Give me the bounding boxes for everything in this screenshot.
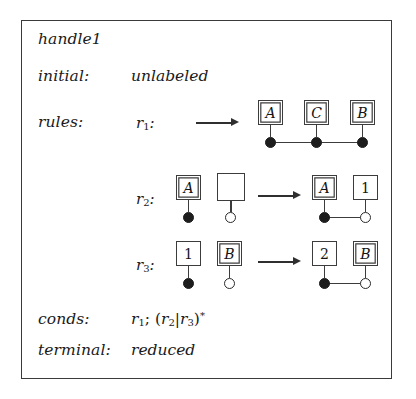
r1-rhs-stem-b <box>362 125 364 137</box>
r3-lhs-stem-1 <box>188 266 190 278</box>
r1-rhs-box-a: A <box>258 100 283 125</box>
r2-lhs-stem-a <box>188 200 190 212</box>
r3-rhs-box-b-label: B <box>360 247 370 261</box>
r2-rhs-box-1: 1 <box>353 175 378 200</box>
r2-rhs-box-1-label: 1 <box>361 181 370 195</box>
r3-rhs-box-b: B <box>353 241 378 266</box>
r3-rhs-dot-b <box>360 278 371 289</box>
grammar-title: handle1 <box>38 30 102 48</box>
conds-label: conds: <box>38 310 90 328</box>
terminal-label: terminal: <box>38 341 111 359</box>
rule-arrow-r1 <box>196 117 240 129</box>
r3-lhs-box-1: 1 <box>176 241 201 266</box>
r2-rhs-stem-1 <box>365 200 367 212</box>
conds-star: * <box>200 310 205 321</box>
initial-value: unlabeled <box>131 67 208 85</box>
r1-rhs-box-c-label: C <box>311 106 322 120</box>
rule-name-r1: r1: <box>136 114 155 132</box>
r3-lhs-box-1-label: 1 <box>184 247 193 261</box>
r3-rhs-stem-b <box>365 266 367 278</box>
r2-rhs-link <box>324 217 365 219</box>
rule-arrow-r3 <box>258 256 302 268</box>
rule-name-r2: r2: <box>136 190 155 208</box>
rule-name-r3-colon: : <box>150 256 155 274</box>
graph-grammar-figure: handle1 initial: unlabeled rules: r1: A … <box>0 0 416 399</box>
r3-lhs-dot-b <box>224 278 235 289</box>
r2-rhs-box-a: A <box>312 175 337 200</box>
rules-label: rules: <box>38 113 83 131</box>
r1-rhs-stem-c <box>316 125 318 137</box>
r2-lhs-box-empty <box>217 173 245 201</box>
r3-rhs-box-2: 2 <box>312 241 337 266</box>
r2-rhs-dot-1 <box>360 212 371 223</box>
rule-name-r1-colon: : <box>150 114 155 132</box>
r2-lhs-box-a-label: A <box>183 181 193 195</box>
r2-lhs-box-a: A <box>176 175 201 200</box>
r1-rhs-box-b-label: B <box>357 106 367 120</box>
r2-rhs-stem-a <box>324 200 326 212</box>
r2-lhs-dot-empty <box>225 212 236 223</box>
rule-arrow-r2 <box>258 190 302 202</box>
conds-semicolon: ; <box>145 310 150 328</box>
r1-rhs-box-b: B <box>350 100 375 125</box>
r1-rhs-box-a-label: A <box>265 106 275 120</box>
r2-lhs-stem-empty <box>230 201 232 212</box>
conds-expression: r1; (r2|r3)* <box>131 310 205 328</box>
r2-rhs-box-a-label: A <box>319 181 329 195</box>
r2-lhs-dot-a <box>183 212 194 223</box>
terminal-value: reduced <box>131 341 195 359</box>
r3-rhs-dot-2 <box>319 278 330 289</box>
r3-rhs-link <box>324 283 365 285</box>
rule-name-r2-colon: : <box>150 190 155 208</box>
initial-label: initial: <box>38 67 89 85</box>
r1-rhs-stem-a <box>270 125 272 137</box>
r3-rhs-box-2-label: 2 <box>320 247 329 261</box>
r3-rhs-stem-2 <box>324 266 326 278</box>
r3-lhs-stem-b <box>229 266 231 278</box>
rule-name-r3: r3: <box>136 256 155 274</box>
r3-lhs-box-b: B <box>217 241 242 266</box>
r3-lhs-box-b-label: B <box>224 247 234 261</box>
r2-rhs-dot-a <box>319 212 330 223</box>
r1-rhs-dot-a <box>265 137 276 148</box>
r1-rhs-dot-b <box>357 137 368 148</box>
r1-rhs-box-c: C <box>304 100 329 125</box>
r1-rhs-dot-c <box>311 137 322 148</box>
r3-lhs-dot-1 <box>183 278 194 289</box>
